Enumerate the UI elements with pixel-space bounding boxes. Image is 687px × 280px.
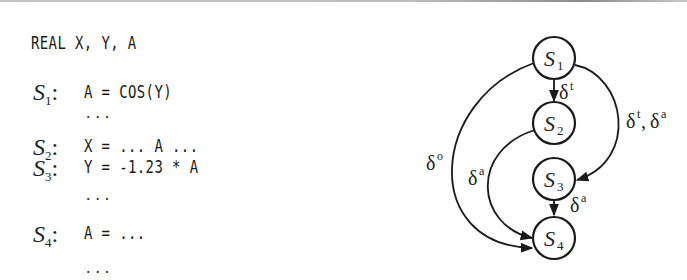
node-label: S [544,111,555,136]
edge-s2-s4 [488,130,535,238]
node-s3: S 3 [533,158,575,200]
node-subscript: 2 [557,123,564,138]
node-label: S [544,226,555,251]
separator: , [641,110,646,132]
edge-label-s2-s4: δ a [468,164,485,189]
edge-label-s1-s2: δ t [559,79,574,103]
delta-symbol: δ [570,194,579,216]
delta-symbol: δ [468,167,477,189]
node-subscript: 4 [557,238,564,253]
edge-label-s1-s3: δ t , δ a [626,107,667,132]
delta-symbol: δ [559,81,568,103]
edge-label-s1-s4: δ o [426,149,443,174]
delta-symbol: δ [426,152,435,174]
edge-s1-s3 [575,65,619,180]
node-subscript: 1 [557,58,564,73]
node-s4: S 4 [533,217,575,259]
edge-label-s3-s4: δ a [570,191,587,216]
node-s1: S 1 [533,37,575,79]
dependence-type: t [570,79,574,93]
delta-symbol: δ [626,110,635,132]
node-label: S [544,167,555,192]
dependence-type: o [437,149,443,163]
node-label: S [544,46,555,71]
dependence-type: a [661,107,667,121]
dependence-type: a [581,191,587,205]
node-s2: S 2 [533,102,575,144]
dependence-type: a [479,164,485,178]
dependence-graph: S 1 S 2 S 3 S 4 δ t δ t , δ a δ o δ a δ … [0,0,687,280]
delta-symbol: δ [650,110,659,132]
node-subscript: 3 [557,179,564,194]
edge-s1-s4 [452,63,534,248]
